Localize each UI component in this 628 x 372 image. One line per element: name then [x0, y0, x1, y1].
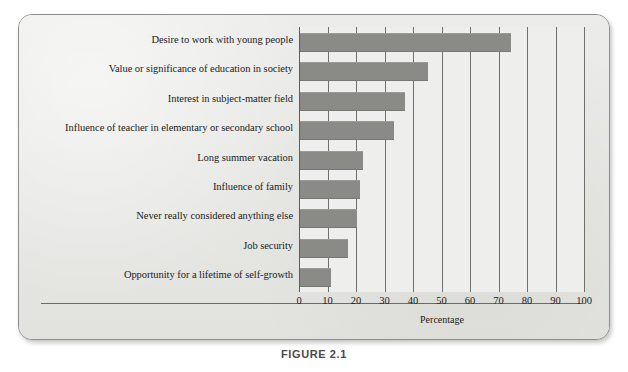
x-tick-label: 50	[427, 295, 457, 306]
gridline	[470, 27, 471, 292]
gridline	[556, 27, 557, 292]
bar	[300, 33, 511, 52]
x-tick-label: 90	[541, 295, 571, 306]
x-tick-label: 70	[484, 295, 514, 306]
x-tick-label: 60	[455, 295, 485, 306]
gridline	[527, 27, 528, 292]
gridline	[584, 27, 585, 292]
category-label: Job security	[25, 240, 293, 251]
x-tick-label: 40	[398, 295, 428, 306]
bar	[300, 268, 331, 287]
x-axis-title: Percentage	[299, 314, 585, 325]
category-label: Desire to work with young people	[25, 34, 293, 45]
bar	[300, 62, 428, 81]
x-tick-label: 0	[284, 295, 314, 306]
category-label: Value or significance of education in so…	[25, 63, 293, 74]
category-label: Long summer vacation	[25, 152, 293, 163]
figure-root: Desire to work with young peopleValue or…	[0, 0, 628, 372]
bar	[300, 180, 360, 199]
x-tick-label: 20	[341, 295, 371, 306]
category-label: Opportunity for a lifetime of self-growt…	[25, 269, 293, 280]
chart-card: Desire to work with young peopleValue or…	[18, 14, 610, 340]
bar	[300, 209, 357, 228]
x-tick-label: 100	[569, 295, 599, 306]
category-label: Influence of teacher in elementary or se…	[25, 122, 293, 133]
category-label: Never really considered anything else	[25, 210, 293, 221]
bar	[300, 92, 405, 111]
plot-area	[299, 27, 585, 292]
x-tick-label: 10	[313, 295, 343, 306]
figure-caption: FIGURE 2.1	[0, 348, 628, 360]
category-label: Influence of family	[25, 181, 293, 192]
bar	[300, 239, 348, 258]
gridline	[442, 27, 443, 292]
x-tick-label: 80	[512, 295, 542, 306]
x-tick-label: 30	[370, 295, 400, 306]
bar	[300, 121, 394, 140]
gridline	[499, 27, 500, 292]
bar	[300, 151, 363, 170]
category-label: Interest in subject-matter field	[25, 93, 293, 104]
